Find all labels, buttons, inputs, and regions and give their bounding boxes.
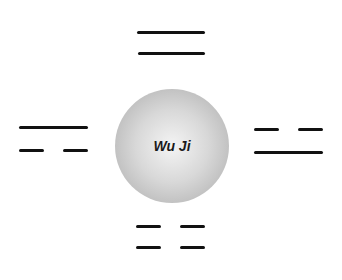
- broken-line-right-segment: [298, 128, 323, 131]
- broken-line-left-segment: [136, 225, 161, 228]
- broken-line-right-segment: [180, 225, 205, 228]
- wu-ji-circle: Wu Ji: [115, 89, 229, 203]
- wu-ji-label: Wu Ji: [153, 138, 190, 154]
- solid-line: [138, 52, 205, 55]
- solid-line: [137, 31, 205, 34]
- broken-line-left-segment: [254, 128, 279, 131]
- broken-line-left-segment: [19, 149, 44, 152]
- solid-line: [19, 126, 88, 129]
- solid-line: [254, 151, 323, 154]
- broken-line-right-segment: [63, 149, 88, 152]
- broken-line-left-segment: [136, 246, 161, 249]
- broken-line-right-segment: [180, 246, 205, 249]
